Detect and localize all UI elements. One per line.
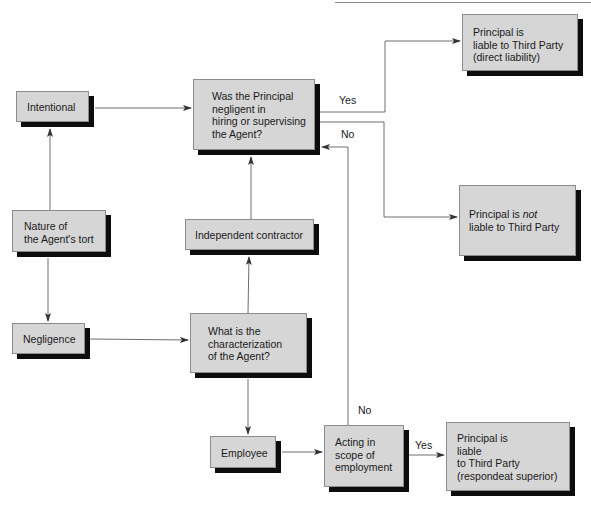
node-nature-of-tort: Nature of the Agent's tort bbox=[12, 210, 106, 252]
emphasis-not: not bbox=[523, 208, 538, 220]
node-label: Intentional bbox=[27, 101, 75, 114]
node-label: What is the characterization of the Agen… bbox=[208, 325, 282, 363]
node-principal-negligent-question: Was the Principal negligent in hiring or… bbox=[193, 79, 315, 150]
node-label: Principal is not liable to Third Party bbox=[469, 208, 559, 233]
edge-label-no-scope: No bbox=[358, 404, 371, 416]
node-acting-in-scope: Acting in scope of employment bbox=[324, 425, 404, 487]
node-direct-liability: Principal is liable to Third Party (dire… bbox=[462, 14, 578, 71]
node-label: Principal is liable to Third Party (dire… bbox=[473, 26, 563, 64]
node-employee: Employee bbox=[210, 436, 276, 468]
node-characterization-question: What is the characterization of the Agen… bbox=[190, 313, 307, 373]
node-label: Negligence bbox=[23, 333, 76, 346]
node-negligence: Negligence bbox=[12, 323, 85, 354]
node-independent-contractor: Independent contractor bbox=[185, 219, 314, 250]
edge-label-no-question: No bbox=[341, 128, 354, 140]
node-label: Independent contractor bbox=[195, 229, 303, 242]
node-not-liable: Principal is not liable to Third Party bbox=[459, 185, 576, 256]
node-label: Acting in scope of employment bbox=[335, 436, 392, 474]
node-intentional: Intentional bbox=[16, 91, 89, 122]
node-label: Was the Principal negligent in hiring or… bbox=[212, 90, 306, 140]
edge-label-yes-scope: Yes bbox=[415, 439, 432, 451]
node-label: Employee bbox=[221, 447, 268, 460]
node-respondeat-superior: Principal is liable to Third Party (resp… bbox=[446, 422, 570, 491]
node-label: Principal is liable to Third Party (resp… bbox=[457, 432, 557, 482]
node-label: Nature of the Agent's tort bbox=[24, 220, 94, 245]
edge-label-yes-direct: Yes bbox=[339, 94, 356, 106]
